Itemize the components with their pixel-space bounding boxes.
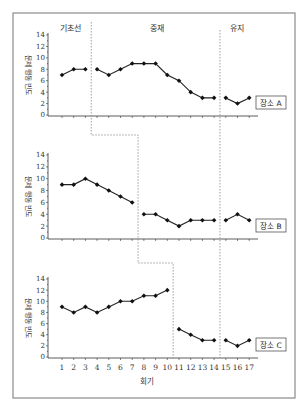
series-line	[62, 290, 167, 312]
x-tick-label: 3	[83, 363, 88, 372]
panel-1: 02468101214문제 행동 빈도장소 A	[24, 31, 286, 119]
x-tick-label: 8	[142, 363, 147, 372]
y-tick-label: 14	[36, 275, 45, 283]
multiple-baseline-chart: 기초선 중재 유지 02468101214문제 행동 빈도장소 A0246810…	[0, 0, 302, 404]
y-tick-label: 6	[41, 77, 46, 85]
data-point	[224, 218, 229, 223]
data-point	[83, 67, 88, 72]
data-point	[142, 293, 147, 298]
x-tick-label: 12	[186, 363, 196, 372]
y-tick-label: 14	[36, 31, 45, 39]
y-tick-label: 6	[41, 199, 46, 207]
y-tick-label: 14	[36, 151, 45, 159]
chart-frame	[13, 13, 295, 398]
y-tick-label: 0	[41, 111, 45, 119]
phase-label-intervention: 중재	[150, 24, 164, 33]
data-point	[235, 344, 240, 349]
x-tick-label: 7	[130, 363, 135, 372]
phase-label-baseline: 기초선	[60, 24, 81, 33]
x-tick-label: 13	[198, 363, 208, 372]
data-point	[200, 338, 205, 343]
y-tick-label: 10	[36, 298, 45, 306]
data-point	[153, 212, 158, 217]
data-point	[200, 218, 205, 223]
data-point	[107, 188, 112, 193]
data-point	[212, 218, 217, 223]
data-point	[107, 73, 112, 78]
data-point	[118, 67, 123, 72]
y-tick-label: 0	[41, 234, 45, 242]
site-label: 장소 A	[260, 98, 282, 108]
data-point	[118, 194, 123, 199]
data-point	[95, 67, 100, 72]
x-axis-label: 회기	[140, 377, 154, 386]
y-tick-label: 4	[41, 211, 46, 219]
y-tick-label: 0	[41, 353, 45, 361]
y-tick-label: 10	[36, 175, 45, 183]
data-point	[153, 293, 158, 298]
data-point	[247, 338, 252, 343]
series-line	[97, 64, 214, 98]
x-tick-label: 6	[118, 363, 123, 372]
data-point	[83, 305, 88, 310]
x-tick-label: 17	[244, 363, 254, 372]
data-point	[95, 182, 100, 187]
data-point	[177, 327, 182, 332]
series-line	[62, 179, 132, 203]
data-point	[212, 96, 217, 101]
phase-label-maintenance: 유지	[230, 24, 244, 33]
x-tick-label: 4	[95, 363, 100, 372]
data-point	[60, 182, 65, 187]
y-tick-label: 2	[41, 223, 45, 231]
data-point	[107, 305, 112, 310]
data-point	[177, 224, 182, 229]
data-point	[60, 73, 65, 78]
panel-3: 02468101214문제 행동 빈도장소 C	[24, 275, 286, 361]
data-point	[130, 61, 135, 66]
x-tick-label: 10	[163, 363, 173, 372]
x-tick-label: 9	[153, 363, 158, 372]
x-tick-label: 2	[71, 363, 76, 372]
y-axis-label: 문제 행동 빈도	[24, 176, 33, 217]
x-tick-label: 5	[106, 363, 111, 372]
data-point	[130, 299, 135, 304]
x-tick-label: 11	[174, 363, 184, 372]
y-axis-label: 문제 행동 빈도	[24, 55, 33, 96]
data-point	[224, 338, 229, 343]
data-point	[247, 96, 252, 101]
chart-panels: 02468101214문제 행동 빈도장소 A02468101214문제 행동 …	[24, 22, 286, 372]
y-tick-label: 2	[41, 100, 45, 108]
x-tick-label: 14	[209, 363, 219, 372]
site-label: 장소 C	[260, 340, 282, 350]
data-point	[71, 182, 76, 187]
data-point	[247, 218, 252, 223]
y-tick-label: 12	[36, 43, 45, 51]
y-tick-label: 4	[41, 331, 46, 339]
data-point	[224, 96, 229, 101]
site-label: 장소 B	[260, 221, 282, 231]
x-tick-label: 15	[221, 363, 231, 372]
data-point	[71, 310, 76, 315]
y-tick-label: 12	[36, 287, 45, 295]
data-point	[130, 200, 135, 205]
data-point	[60, 305, 65, 310]
data-point	[235, 212, 240, 217]
phase-labels: 기초선 중재 유지	[60, 24, 244, 33]
data-point	[188, 332, 193, 337]
data-point	[165, 288, 170, 293]
y-tick-label: 8	[41, 66, 45, 74]
data-point	[118, 299, 123, 304]
data-point	[235, 101, 240, 106]
series-line	[179, 329, 214, 340]
panel-2: 02468101214문제 행동 빈도장소 B	[24, 151, 286, 242]
y-tick-label: 4	[41, 89, 46, 97]
y-tick-label: 8	[41, 309, 45, 317]
y-tick-label: 2	[41, 342, 45, 350]
data-point	[71, 67, 76, 72]
data-point	[200, 96, 205, 101]
y-tick-label: 8	[41, 187, 45, 195]
x-tick-label: 16	[233, 363, 243, 372]
x-tick-label: 1	[60, 363, 65, 372]
data-point	[95, 310, 100, 315]
data-point	[188, 218, 193, 223]
